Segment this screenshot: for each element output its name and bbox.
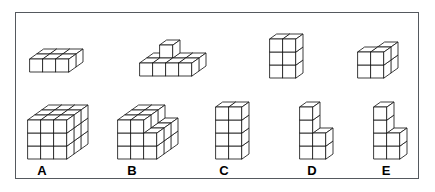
option-label-d[interactable]: D (301, 164, 323, 178)
cube-puzzle-figure: ABCDE (0, 0, 435, 192)
option-label-a[interactable]: A (31, 164, 53, 178)
option-label-e[interactable]: E (375, 164, 397, 178)
option-label-b[interactable]: B (121, 164, 143, 178)
figure-border (15, 12, 419, 179)
option-label-c[interactable]: C (213, 164, 235, 178)
